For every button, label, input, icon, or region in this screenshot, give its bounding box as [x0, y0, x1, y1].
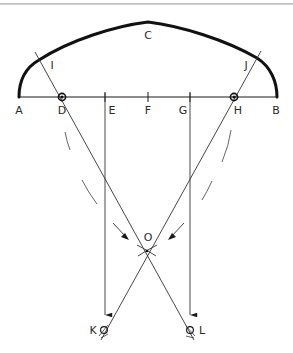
- label-d: D: [58, 105, 66, 116]
- point-o: [146, 250, 149, 253]
- label-g: G: [179, 105, 188, 116]
- label-c: C: [144, 30, 152, 41]
- label-b: B: [272, 105, 280, 116]
- label-e: E: [109, 105, 116, 116]
- label-i: I: [50, 60, 53, 71]
- center-dot-h: [233, 96, 236, 99]
- pointer-arrowhead-left: [121, 233, 129, 240]
- dashed-arc-left-1: [65, 132, 70, 150]
- label-l: L: [199, 325, 205, 336]
- label-h: H: [234, 105, 242, 116]
- dashed-arc-left-2: [82, 180, 97, 204]
- arch-construction-diagram: [0, 0, 293, 353]
- dashed-arc-right-2: [202, 181, 212, 200]
- dashed-arc-right-1: [222, 130, 231, 162]
- label-k: K: [89, 325, 96, 336]
- label-a: A: [15, 105, 23, 116]
- label-j: J: [244, 60, 247, 71]
- label-o: O: [144, 232, 153, 243]
- pointer-arrowhead-right: [168, 233, 176, 240]
- center-dot-d: [61, 96, 64, 99]
- label-f: F: [145, 105, 151, 116]
